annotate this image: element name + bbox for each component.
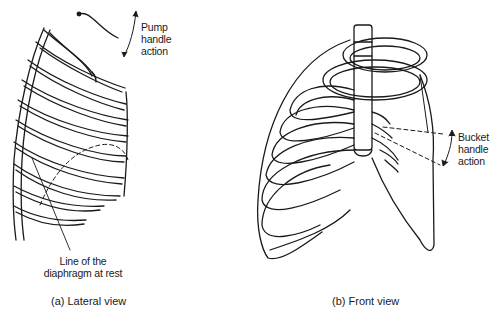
label-line: action: [458, 155, 489, 167]
label-line: handle: [141, 33, 171, 45]
label-line: handle: [458, 143, 489, 155]
front-view-ribcage: [258, 25, 455, 259]
bucket-handle-label: Bucket handle action: [458, 131, 489, 167]
caption-lateral-view: (a) Lateral view: [51, 295, 126, 308]
label-line: Line of the: [42, 255, 124, 267]
label-line: action: [141, 45, 171, 57]
label-line: diaphragm at rest: [42, 267, 124, 279]
caption-front-view: (b) Front view: [332, 295, 399, 308]
label-line: Bucket: [458, 131, 489, 143]
label-line: Pump: [141, 21, 171, 33]
diaphragm-label: Line of the diaphragm at rest: [42, 255, 124, 279]
lateral-view-ribcage: [13, 11, 138, 250]
pump-handle-label: Pump handle action: [141, 21, 171, 57]
